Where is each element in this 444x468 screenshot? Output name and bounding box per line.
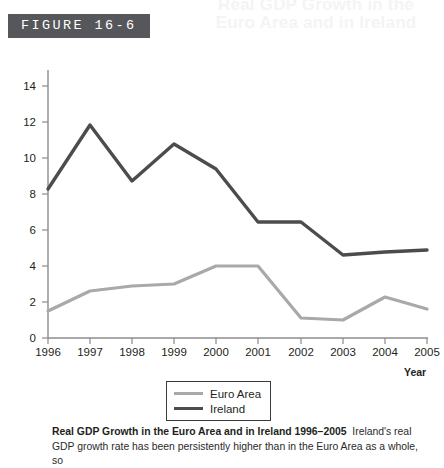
- x-tick-label-2003: 2003: [323, 346, 363, 358]
- x-axis-title: Year: [404, 366, 426, 378]
- series-line-euro-area: [48, 266, 427, 320]
- y-tick-label-6: 6: [14, 224, 36, 236]
- y-axis-ticks: [42, 86, 48, 338]
- x-tick-label-1999: 1999: [154, 346, 194, 358]
- legend-item-euro-area: Euro Area: [174, 386, 261, 401]
- figure-banner-label: FIGURE 16-6: [8, 14, 150, 38]
- line-chart-svg: [0, 52, 438, 352]
- figure-caption-title: Real GDP Growth in the Euro Area and in …: [52, 426, 347, 437]
- chart-legend: Euro Area Ireland: [166, 381, 271, 421]
- x-axis-ticks: [48, 338, 427, 344]
- x-tick-label-1997: 1997: [70, 346, 110, 358]
- figure-caption: Real GDP Growth in the Euro Area and in …: [52, 425, 428, 468]
- series-line-ireland: [48, 125, 427, 255]
- y-tick-label-2: 2: [14, 296, 36, 308]
- y-tick-label-4: 4: [14, 260, 36, 272]
- x-tick-label-1996: 1996: [28, 346, 68, 358]
- x-tick-label-2002: 2002: [281, 346, 321, 358]
- y-tick-label-8: 8: [14, 188, 36, 200]
- legend-swatch-ireland: [174, 407, 203, 410]
- x-tick-label-2004: 2004: [365, 346, 405, 358]
- legend-label-ireland: Ireland: [210, 403, 245, 415]
- y-tick-label-10: 10: [14, 152, 36, 164]
- y-tick-label-14: 14: [14, 80, 36, 92]
- y-tick-label-12: 12: [14, 116, 36, 128]
- x-tick-label-2001: 2001: [238, 346, 278, 358]
- legend-swatch-euro-area: [174, 392, 203, 395]
- x-tick-label-1998: 1998: [112, 346, 152, 358]
- chart-plot-area: 0 2 4 6 8 10 12 14 1996 1997 1998 1999 2…: [0, 52, 438, 352]
- legend-label-euro-area: Euro Area: [210, 388, 261, 400]
- x-tick-label-2000: 2000: [196, 346, 236, 358]
- page-bleed-through-text: Real GDP Growth in the Euro Area and in …: [196, 0, 436, 32]
- y-tick-label-0: 0: [14, 332, 36, 344]
- x-tick-label-2005: 2005: [407, 346, 444, 358]
- legend-item-ireland: Ireland: [174, 401, 261, 416]
